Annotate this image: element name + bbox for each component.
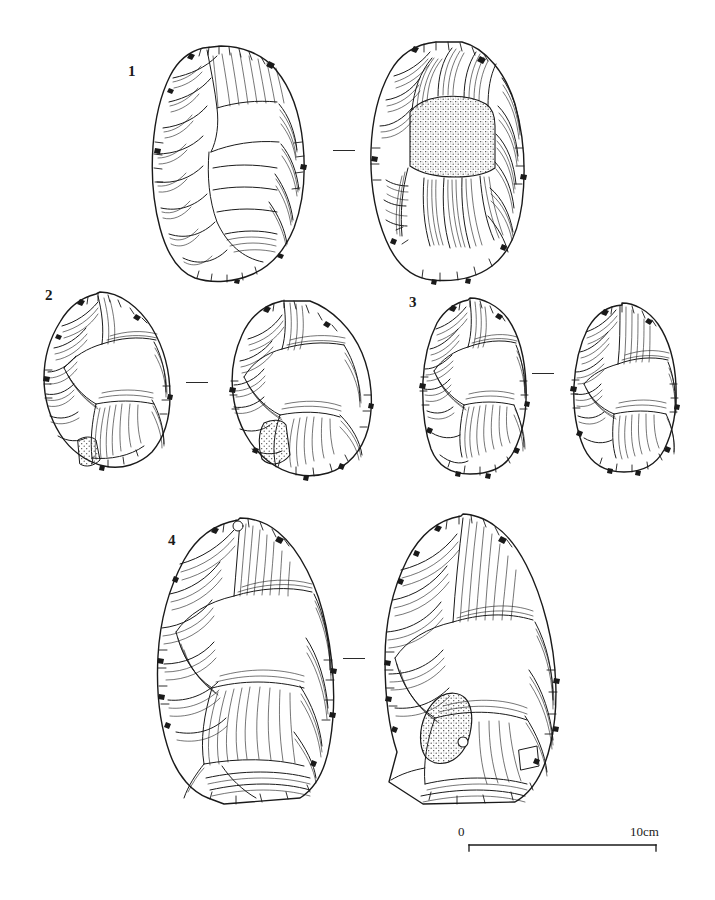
artifact-3-view-obverse bbox=[418, 297, 533, 477]
scale-bar-start-label: 0 bbox=[458, 825, 465, 838]
artifact-4-view-reverse bbox=[375, 512, 565, 812]
artifact-3-view-reverse bbox=[570, 302, 682, 474]
artifact-2-view-reverse bbox=[228, 295, 378, 485]
lithic-illustration-plate: 1 bbox=[0, 0, 715, 900]
scale-bar-end-label: 10cm bbox=[630, 825, 659, 838]
artifact-number-1: 1 bbox=[128, 64, 136, 79]
scale-bar: 0 10cm bbox=[468, 838, 658, 862]
artifact-2-view-separator bbox=[186, 382, 208, 383]
artifact-1-view-separator bbox=[333, 150, 355, 151]
artifact-number-3: 3 bbox=[409, 295, 417, 310]
artifact-4-view-obverse bbox=[150, 516, 340, 806]
artifact-1-view-obverse bbox=[143, 44, 313, 284]
artifact-3-view-separator bbox=[532, 373, 554, 374]
artifact-1-view-reverse bbox=[362, 38, 532, 286]
artifact-2-view-obverse bbox=[38, 290, 178, 480]
artifact-4-view-separator bbox=[343, 658, 365, 659]
